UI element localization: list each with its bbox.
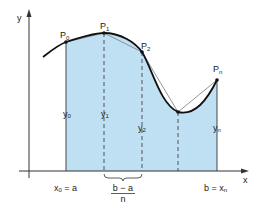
interval-numerator: b − a [113, 183, 133, 193]
interval-denominator: n [120, 194, 125, 204]
point-pn [215, 78, 219, 82]
label-pn: Pn [213, 64, 222, 75]
label-p2: P2 [141, 41, 151, 52]
label-x0-equals-a: x0 = a [54, 183, 77, 193]
y-axis-label: y [17, 13, 22, 23]
x-axis-label: x [243, 175, 248, 185]
point-min [176, 110, 180, 114]
label-p1: P1 [100, 21, 110, 32]
label-yn: yn [213, 123, 221, 133]
x-axis-arrow-icon [241, 169, 249, 174]
y-axis-arrow-icon [27, 9, 32, 17]
interval-brace [104, 174, 142, 181]
trapezoid-rule-diagram: y x P0 P1 P2 Pn y0 y1 y2 yn b − a n x0 =… [0, 0, 263, 208]
label-p0: P0 [60, 30, 70, 41]
label-b-equals-xn: b = xn [204, 183, 227, 193]
